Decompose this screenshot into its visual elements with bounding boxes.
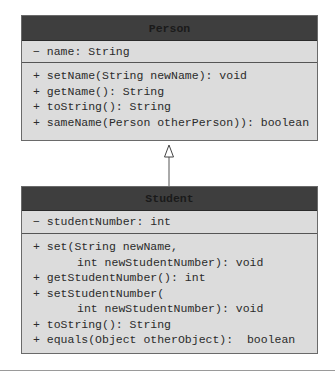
operation: + equals(Object otherObject): boolean <box>33 332 317 348</box>
attributes-section: − name: String <box>22 41 317 63</box>
class-person: Person − name: String + setName(String n… <box>21 15 318 141</box>
class-student: Student − studentNumber: int + set(Strin… <box>21 186 318 354</box>
class-name: Person <box>22 16 317 41</box>
operation: + toString(): String <box>33 317 317 333</box>
attribute: − studentNumber: int <box>33 214 317 230</box>
operation: + toString(): String <box>33 99 317 115</box>
operations-section: + set(String newName, int newStudentNumb… <box>22 234 317 348</box>
operations-section: + setName(String newName): void + getNam… <box>22 63 317 130</box>
class-name: Student <box>22 187 317 211</box>
operation-continuation: int newStudentNumber): void <box>33 255 317 271</box>
attribute: − name: String <box>33 44 317 60</box>
operation-continuation: int newStudentNumber): void <box>33 301 317 317</box>
divider-rule <box>0 370 335 371</box>
attributes-section: − studentNumber: int <box>22 211 317 234</box>
operation: + getName(): String <box>33 84 317 100</box>
operation: + setName(String newName): void <box>33 68 317 84</box>
operation: + sameName(Person otherPerson)): boolean <box>33 115 317 131</box>
operation: + set(String newName, <box>33 239 317 255</box>
generalization-arrow-icon <box>161 144 177 187</box>
operation: + getStudentNumber(): int <box>33 270 317 286</box>
operation: + setStudentNumber( <box>33 286 317 302</box>
